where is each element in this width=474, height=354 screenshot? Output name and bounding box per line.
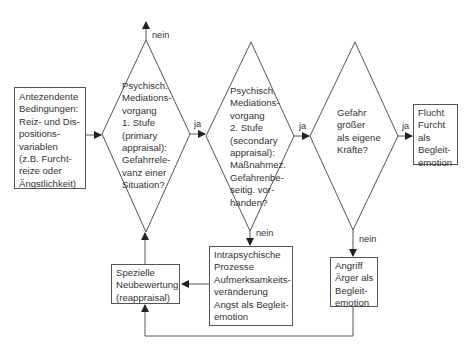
diamond-line: vanz einer	[122, 167, 172, 179]
box-line: Angst als Begleit-	[214, 299, 292, 311]
diamond-line: Psychisch.	[230, 85, 286, 97]
box-line: Antezendente	[19, 91, 85, 103]
diamond-line: Mediations-	[230, 97, 286, 109]
box-line: Flucht	[418, 107, 457, 119]
diamond-line: (secondary	[230, 135, 286, 147]
diamond-line: Gefahrenbe-	[230, 172, 286, 184]
diamond-line: Mediations-	[122, 92, 172, 104]
box-line: emotion	[214, 311, 292, 323]
box-line: Reiz- und Dis-	[19, 116, 85, 128]
diamond-line: (primary	[122, 130, 172, 142]
box-line: veränderung	[214, 286, 292, 298]
edge-label-danger-no: nein	[359, 234, 376, 244]
box-line: als	[418, 132, 457, 144]
edge-label-stage1-no: nein	[152, 30, 169, 40]
box-line: emotion	[335, 297, 377, 309]
box-line: positions-	[19, 128, 85, 140]
box-line: Aufmerksamkeits-	[214, 274, 292, 286]
diamond-line: seitig. vor-	[230, 184, 286, 196]
edge-label-stage2-no: nein	[256, 228, 273, 238]
flight-outcome-box: Flucht Furcht als Begleit- emotion	[413, 104, 458, 165]
stage2-decision-text: Psychisch. Mediations- vorgang 2. Stufe …	[230, 85, 286, 209]
box-line: Angriff	[335, 260, 377, 272]
attack-outcome-box: Angriff Ärger als Begleit- emotion	[330, 257, 378, 307]
box-line: Begleit-	[335, 285, 377, 297]
diamond-line: Kräfte?	[337, 144, 381, 156]
box-line: Ängstlichkeit)	[19, 178, 85, 190]
intrapsychic-processes-box: Intrapsychische Prozesse Aufmerksamkeits…	[209, 246, 293, 326]
box-line: reize oder	[19, 165, 85, 177]
diamond-line: handen?	[230, 197, 286, 209]
box-line: (reappraisal)	[116, 292, 179, 304]
diamond-line: größer	[337, 119, 381, 131]
edge-label-stage2-yes: ja	[299, 121, 306, 131]
box-line: emotion	[418, 157, 457, 169]
diamond-line: appraisal):	[122, 142, 172, 154]
box-line: Begleit-	[418, 144, 457, 156]
box-line: Ärger als	[335, 272, 377, 284]
stage1-decision-text: Psychisch. Mediations- vorgang 1. Stufe …	[122, 80, 172, 192]
diamond-line: appraisal):	[230, 147, 286, 159]
box-line: Prozesse	[214, 261, 292, 273]
danger-decision-text: Gefahr größer als eigene Kräfte?	[337, 107, 381, 157]
diamond-line: vorgang	[122, 105, 172, 117]
diamond-line: Situation?	[122, 179, 172, 191]
diamond-line: Maßnahmez.	[230, 159, 286, 171]
diamond-line: 2. Stufe	[230, 122, 286, 134]
box-line: Bedingungen:	[19, 103, 85, 115]
box-line: Furcht	[418, 119, 457, 131]
reappraisal-box: Spezielle Neubewertung (reappraisal)	[111, 264, 180, 304]
diamond-line: als eigene	[337, 132, 381, 144]
box-line: variablen	[19, 141, 85, 153]
edge-label-danger-yes: ja	[402, 121, 409, 131]
diamond-line: 1. Stufe	[122, 117, 172, 129]
diamond-line: Gefahr	[337, 107, 381, 119]
box-line: Spezielle	[116, 267, 179, 279]
antecedent-conditions-box: Antezendente Bedingungen: Reiz- und Dis-…	[14, 87, 86, 189]
box-line: Neubewertung	[116, 279, 179, 291]
box-line: Intrapsychische	[214, 249, 292, 261]
edge-label-stage1-yes: ja	[194, 119, 201, 129]
box-line: (z.B. Furcht-	[19, 153, 85, 165]
diamond-line: vorgang	[230, 110, 286, 122]
diamond-line: Gefahrrele-	[122, 154, 172, 166]
diamond-line: Psychisch.	[122, 80, 172, 92]
